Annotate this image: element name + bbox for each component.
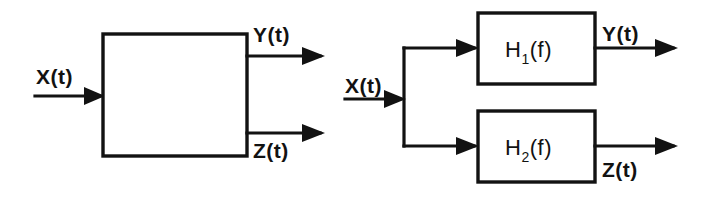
right-output-z-label: Z(t) bbox=[602, 158, 638, 181]
left-input-wire bbox=[35, 87, 105, 105]
filter-block-h2-letter: H bbox=[505, 135, 521, 160]
right-diagram: X(t) H1(f) H2(f) bbox=[345, 13, 678, 182]
right-branch-upper-arrowhead bbox=[456, 39, 479, 57]
left-diagram: X(t) Y(t) Z(t) bbox=[35, 23, 325, 162]
block-diagram-figure: X(t) Y(t) Z(t) X(t) bbox=[0, 0, 706, 197]
left-output-y-wire bbox=[247, 47, 325, 65]
left-output-z-label: Z(t) bbox=[253, 139, 289, 162]
right-output-z-arrowhead bbox=[655, 137, 678, 155]
diagram-canvas: X(t) Y(t) Z(t) X(t) bbox=[0, 0, 706, 197]
right-input-label: X(t) bbox=[345, 74, 382, 97]
right-branch-lower-wire bbox=[404, 137, 479, 155]
filter-block-h2-subscript: 2 bbox=[521, 149, 529, 165]
right-output-z-wire bbox=[595, 137, 678, 155]
filter-block-h1-letter: H bbox=[505, 37, 521, 62]
filter-block-h1-subscript: 1 bbox=[521, 51, 529, 67]
right-branch-upper-wire bbox=[404, 39, 479, 57]
left-output-z-arrowhead bbox=[302, 124, 325, 142]
left-system-block bbox=[103, 34, 247, 156]
right-branch-lower-arrowhead bbox=[456, 137, 479, 155]
filter-block-h1-suffix: (f) bbox=[530, 37, 552, 62]
filter-block-h2-suffix: (f) bbox=[530, 135, 552, 160]
left-input-label: X(t) bbox=[36, 65, 73, 88]
right-output-y-label: Y(t) bbox=[602, 22, 639, 45]
right-output-y-arrowhead bbox=[655, 39, 678, 57]
left-output-y-arrowhead bbox=[302, 47, 325, 65]
left-output-y-label: Y(t) bbox=[253, 23, 290, 46]
